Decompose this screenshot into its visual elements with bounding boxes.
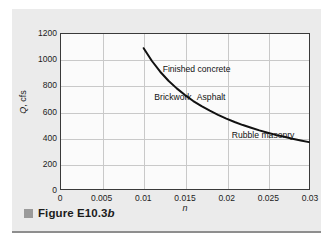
y-axis-tick-label: 1200: [38, 28, 57, 38]
annotation-label: Rubble masonry: [232, 130, 295, 140]
y-axis-tick-label: 800: [43, 80, 57, 90]
annotation-label: Finished concrete: [163, 64, 231, 74]
chart-area: 020040060080010001200 Q, cfs Finished co…: [12, 9, 321, 199]
y-axis-label-symbol: Q: [18, 107, 28, 114]
x-axis-tick-label: 0.03: [302, 193, 319, 203]
y-axis-label-units: , cfs: [18, 90, 28, 107]
y-axis-tick-label: 600: [43, 107, 57, 117]
x-axis-tick-label: 0: [58, 193, 63, 203]
y-axis-label: Q, cfs: [18, 80, 28, 124]
figure-panel: 020040060080010001200 Q, cfs Finished co…: [12, 9, 321, 233]
annotation-label: Asphalt: [197, 92, 226, 102]
y-axis-tick-label: 1000: [38, 54, 57, 64]
plot-frame: Finished concreteBrickworkAsphaltRubble …: [60, 33, 310, 190]
caption-bullet-icon: [24, 209, 33, 218]
figure-caption: Figure E10.3b: [24, 207, 115, 219]
x-axis-tick-label: 0.01: [135, 193, 152, 203]
annotation-label: Brickwork: [154, 92, 191, 102]
x-axis-tick-label: 0.005: [91, 193, 112, 203]
curve-svg: [61, 34, 309, 189]
y-axis-tick-label: 0: [52, 185, 57, 195]
caption-suffix: b: [108, 207, 115, 219]
caption-text: Figure E10.3b: [38, 207, 115, 219]
x-axis-tick-label: 0.025: [258, 193, 279, 203]
x-axis-tick-label: 0.015: [174, 193, 195, 203]
x-axis-tick-label: 0.02: [218, 193, 235, 203]
y-axis-tick-label: 400: [43, 133, 57, 143]
y-axis-tick-label: 200: [43, 159, 57, 169]
caption-prefix: Figure E10.3: [38, 207, 108, 219]
